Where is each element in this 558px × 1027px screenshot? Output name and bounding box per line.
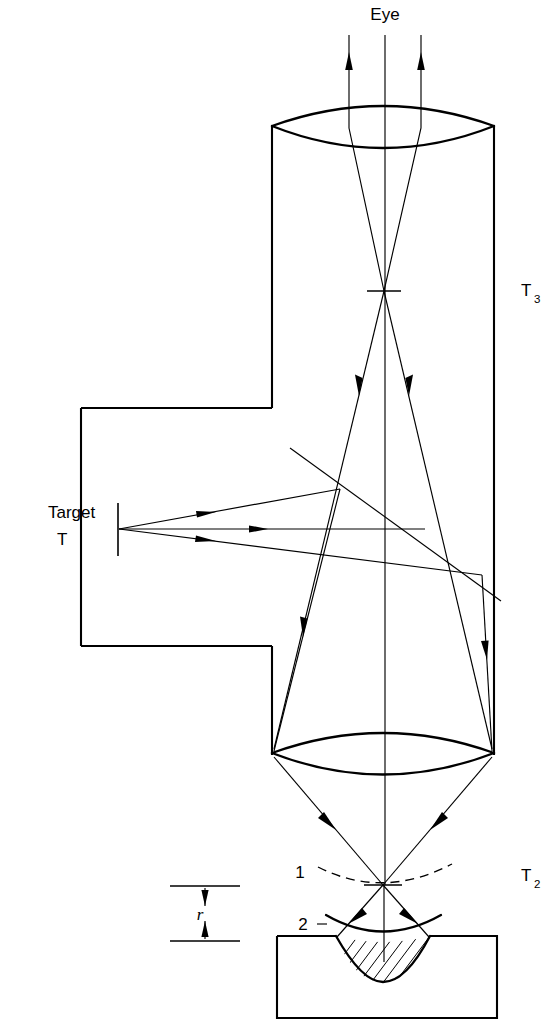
radius-dimension-upper-arrowhead — [201, 890, 208, 906]
microscope-tube-outline — [81, 126, 494, 755]
eye-label: Eye — [370, 5, 399, 24]
ray-image-to-eyepiece-right — [384, 118, 421, 291]
target-ray-lower — [119, 529, 482, 575]
target-label-line2: T — [57, 530, 67, 549]
reflected-ray-right — [482, 575, 492, 751]
reflected-ray-bundle — [274, 489, 492, 751]
exit-ray-right-arrowhead — [417, 52, 425, 70]
exit-ray-left-arrowhead — [345, 52, 353, 70]
focusing-ray-left-arrowhead — [318, 812, 336, 830]
tube-lower-label: T — [521, 866, 531, 885]
surface-reference-2-label: 2 — [298, 915, 307, 934]
tube-upper-label-subscript: 3 — [534, 293, 540, 305]
reflected-ray-right-arrowhead — [481, 641, 489, 661]
converging-ray-bundle — [274, 291, 492, 749]
eyepiece-lens-lower-surface — [272, 126, 494, 148]
optical-axis — [384, 35, 385, 962]
beam-splitter-plate — [290, 448, 501, 601]
objective-lens — [272, 733, 494, 775]
target-ray-lower-arrowhead — [195, 536, 216, 543]
beam-splitter — [290, 448, 501, 601]
specimen-rays — [337, 885, 429, 937]
converging-ray-left — [274, 291, 384, 749]
radius-label: r — [197, 905, 204, 924]
tube-lower-label-subscript: 2 — [534, 878, 540, 890]
objective-lens-upper-surface — [272, 733, 494, 753]
objective-lens-lower-surface — [272, 753, 494, 775]
tube-upper-label: T — [521, 281, 531, 300]
converging-ray-right — [384, 291, 492, 749]
focusing-ray-right-arrowhead — [430, 812, 448, 830]
diagram-labels: Eye Target T T 3 T 2 1 2 r — [48, 5, 540, 934]
hatch-line — [310, 920, 370, 1000]
ray-image-to-eyepiece-left — [349, 118, 384, 291]
specimen-ray-left-arrowhead — [348, 908, 367, 924]
focusing-ray-bundle — [274, 757, 492, 885]
target-ray-fan — [119, 489, 482, 575]
target-ray-middle-arrowhead — [249, 525, 268, 532]
target-label-line1: Target — [48, 503, 96, 522]
specimen-block — [277, 920, 497, 1018]
target-ray-upper — [119, 489, 340, 529]
optical-diagram-figure: Eye Target T T 3 T 2 1 2 r — [0, 0, 558, 1027]
eyepiece-lens-upper-surface — [272, 106, 494, 126]
cavity-lower-surface — [336, 936, 430, 982]
target-ray-upper-arrowhead — [196, 511, 216, 517]
specimen-ray-right-arrowhead — [399, 908, 418, 924]
optical-diagram-canvas: Eye Target T T 3 T 2 1 2 r — [0, 0, 558, 1027]
surface-reference-1-label: 1 — [295, 863, 304, 882]
eyepiece-lens — [272, 106, 494, 148]
radius-dimension — [170, 886, 240, 941]
